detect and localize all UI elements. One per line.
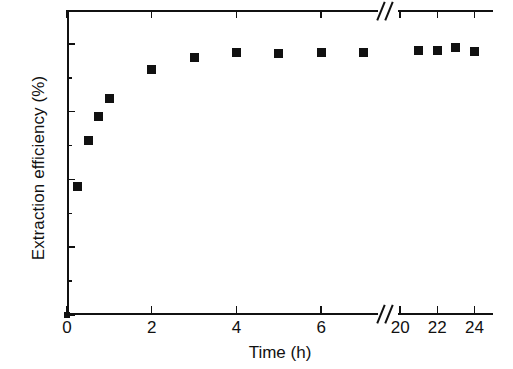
y-tick-minor: [67, 145, 72, 147]
data-point: [451, 43, 460, 52]
data-point: [190, 53, 199, 62]
top-axis-line: [67, 10, 493, 12]
x-tick-major: [474, 306, 476, 314]
data-point: [94, 112, 103, 121]
x-tick-label: 6: [301, 319, 341, 336]
x-tick-label: 4: [216, 319, 256, 336]
data-point: [359, 48, 368, 57]
data-point: [274, 49, 283, 58]
x-tick-label: 24: [454, 319, 494, 336]
x-tick-label: 2: [132, 319, 172, 336]
y-tick-major: [67, 111, 75, 113]
data-point: [414, 46, 423, 55]
x-tick-major-top: [399, 10, 401, 18]
x-tick-major-top: [320, 10, 322, 18]
y-axis-title: Extraction efficiency (%): [29, 23, 49, 313]
y-tick-major: [67, 43, 75, 45]
x-tick-major: [151, 306, 153, 314]
data-point: [317, 48, 326, 57]
x-tick-major-top: [66, 10, 68, 18]
plot-area: 020406080 0246202224: [67, 10, 493, 315]
data-point: [232, 48, 241, 57]
data-point: [73, 182, 82, 191]
chart-figure: Extraction efficiency (%) 020406080 0246…: [0, 0, 513, 369]
y-tick-minor: [67, 77, 72, 79]
x-tick-major: [437, 306, 439, 314]
x-tick-major-top: [474, 10, 476, 18]
y-tick-major: [67, 179, 75, 181]
x-tick-label: 22: [417, 319, 457, 336]
data-point: [64, 312, 70, 318]
y-axis-line: [67, 10, 69, 315]
y-tick-minor: [67, 213, 72, 215]
x-tick-major: [236, 306, 238, 314]
x-axis-line: [67, 313, 493, 315]
x-tick-label: 0: [47, 319, 87, 336]
x-tick-major: [399, 306, 401, 314]
y-tick-major: [67, 246, 75, 248]
x-tick-major-top: [151, 10, 153, 18]
data-point: [470, 47, 479, 56]
data-point: [147, 65, 156, 74]
data-point: [433, 46, 442, 55]
data-point: [105, 94, 114, 103]
x-tick-major-top: [437, 10, 439, 18]
x-tick-major-top: [236, 10, 238, 18]
y-tick-minor: [67, 280, 72, 282]
data-point: [84, 136, 93, 145]
x-tick-major: [320, 306, 322, 314]
x-axis-title: Time (h): [67, 343, 493, 363]
